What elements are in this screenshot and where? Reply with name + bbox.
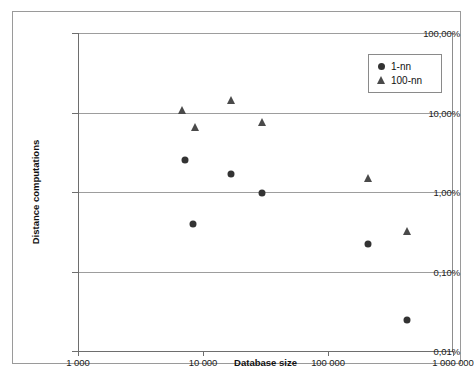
data-point-1-nn [364,241,371,248]
x-axis-title: Database size [234,357,297,368]
y-tick-label: 10,00% [400,107,460,118]
data-point-1-nn [181,156,188,163]
x-tick-mark [328,351,329,356]
x-tick-label: 10 000 [189,357,217,368]
data-point-1-nn [258,190,265,197]
data-point-100-nn [258,118,266,126]
chart-legend: 1-nn 100-nn [368,54,442,93]
data-point-100-nn [178,106,186,114]
triangle-marker-icon [375,76,387,84]
data-point-100-nn [364,174,372,182]
y-tick-mark [72,113,78,114]
y-gridline [79,192,454,193]
chart-frame: Distance computations 100,00%10,00%1,00%… [12,11,461,364]
data-point-100-nn [403,227,411,235]
data-point-100-nn [191,123,199,131]
y-tick-label: 0,10% [400,266,460,277]
data-point-100-nn [227,96,235,104]
y-gridline [79,33,454,34]
x-tick-mark [453,351,454,356]
y-tick-label: 0,01% [400,346,460,357]
y-tick-label: 1,00% [400,187,460,198]
x-tick-mark [203,351,204,356]
legend-label: 100-nn [391,75,422,86]
y-tick-mark [72,192,78,193]
y-gridline [79,113,454,114]
legend-item-1-nn[interactable]: 1-nn [375,59,436,73]
x-tick-label: 100 000 [311,357,345,368]
y-tick-mark [72,272,78,273]
x-tick-label: 1 000 [66,357,89,368]
y-tick-label: 100,00% [400,28,460,39]
legend-item-100-nn[interactable]: 100-nn [375,73,436,87]
x-tick-mark [78,351,79,356]
circle-marker-icon [375,63,387,70]
x-tick-label: 1 000 000 [432,357,473,368]
data-point-1-nn [228,170,235,177]
data-point-1-nn [403,317,410,324]
y-gridline [79,272,454,273]
y-axis-title: Distance computations [30,140,41,245]
data-point-1-nn [190,220,197,227]
y-tick-mark [72,33,78,34]
legend-label: 1-nn [391,61,411,72]
y-gridline [79,351,454,352]
